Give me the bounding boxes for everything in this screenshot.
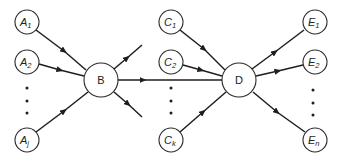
edge-a2-b [39, 64, 84, 76]
svg-text:B: B [97, 74, 104, 86]
node-e1: E1 [303, 10, 327, 34]
edge-b-out-up [114, 45, 142, 69]
edge-d-e2 [256, 65, 303, 76]
edge-aj-b [36, 92, 88, 132]
edge-d-en [253, 92, 305, 132]
svg-text:D: D [235, 74, 243, 86]
node-a2: A2 [15, 50, 39, 74]
node-c1: C1 [159, 10, 183, 34]
edge-c1-d [180, 30, 225, 70]
node-d: D [222, 63, 256, 97]
ellipsis-e [312, 89, 315, 117]
network-diagram: A1 A2 Aj B C1 C2 Ck D E1 [0, 0, 344, 162]
edge-c2-d [183, 65, 222, 76]
node-en: En [303, 128, 327, 152]
node-ck: Ck [159, 128, 183, 152]
edge-ck-d [180, 92, 226, 132]
edge-b-out-down [114, 92, 142, 117]
ellipsis-a [26, 87, 29, 115]
node-e2: E2 [303, 50, 327, 74]
node-b: B [84, 63, 118, 97]
node-c2: C2 [159, 50, 183, 74]
edge-a1-b [36, 30, 86, 70]
node-aj: Aj [15, 128, 39, 152]
ellipsis-c [170, 87, 173, 115]
edge-d-e1 [252, 30, 304, 69]
node-a1: A1 [15, 10, 39, 34]
